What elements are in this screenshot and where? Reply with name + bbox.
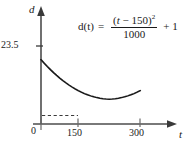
equation-plus-term: + 1: [163, 21, 177, 32]
equation-lhs: d(t): [78, 21, 94, 32]
equation-numerator: (t − 150)2: [111, 14, 157, 27]
x-tick-label-0: 0: [31, 126, 36, 136]
numerator-exponent: 2: [152, 13, 156, 21]
numerator-variable: t: [117, 14, 120, 26]
x-tick-label-300: 300: [129, 128, 144, 138]
function-graph-figure: d t 23.5 0 150 300 d(t) = (t − 150)2 100…: [0, 0, 189, 153]
x-axis-arrowhead: [167, 120, 177, 128]
x-tick-label-150: 150: [67, 128, 82, 138]
numerator-minus-sign: −: [123, 14, 129, 26]
function-equation: d(t) = (t − 150)2 1000 + 1: [78, 14, 178, 40]
y-tick-label-23-5: 23.5: [1, 40, 19, 50]
parabola-curve: [41, 60, 140, 99]
equation-equals-sign: =: [98, 21, 104, 32]
equation-fraction: (t − 150)2 1000: [111, 14, 157, 40]
y-axis-arrowhead: [37, 6, 45, 16]
x-axis-label: t: [179, 129, 182, 140]
equation-denominator: 1000: [121, 28, 147, 40]
y-axis-label: d: [29, 4, 35, 15]
numerator-constant: 150: [132, 14, 149, 26]
